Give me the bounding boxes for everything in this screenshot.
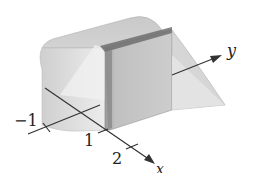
right-wing-shade xyxy=(172,55,225,110)
y-axis-arrow-icon xyxy=(210,55,222,63)
tick-label-neg1: −1 xyxy=(14,113,38,129)
x-axis-label: x xyxy=(156,162,164,173)
x-axis-arrow-icon xyxy=(144,154,155,164)
tick-label-1: 1 xyxy=(84,133,94,149)
tick-label-2: 2 xyxy=(112,151,122,167)
solid-drawing xyxy=(0,0,255,173)
y-axis-label: y xyxy=(227,43,236,59)
diagram-3d-solid: −1 1 2 x y xyxy=(0,0,255,173)
